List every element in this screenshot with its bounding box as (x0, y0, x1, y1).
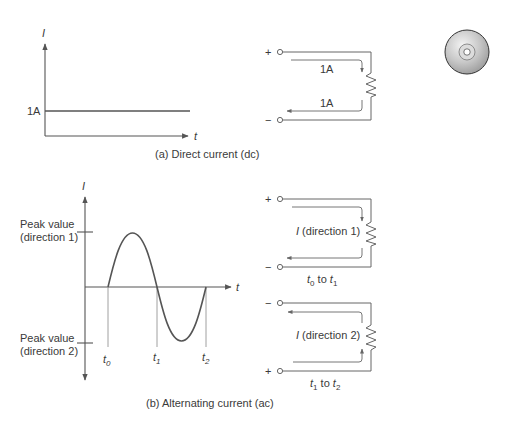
ac1-current-arrow-out (287, 248, 362, 258)
ac-graph: I t Peak value (direction 1) Peak value … (20, 180, 274, 409)
ac2-plus-sign: + (265, 365, 271, 377)
dc-bottom-current-label: 1A (320, 97, 334, 109)
dc-top-current-label: 1A (320, 63, 334, 75)
ac1-interval-label: t0 to t1 (307, 273, 338, 288)
dc-ac-diagram: I t 1A (a) Direct current (dc) + − 1A 1A… (0, 0, 515, 425)
ac1-minus-sign: − (265, 261, 271, 273)
ac2-current-arrow-out (288, 312, 362, 323)
dc-minus-terminal (277, 117, 282, 122)
peak1-label-line1: Peak value (20, 218, 74, 230)
ac2-current-label: I (direction 2) (296, 329, 360, 341)
ac-circuit-direction-2: − + I (direction 2) t1 to t2 (265, 297, 376, 392)
dc-graph: I t 1A (a) Direct current (dc) (27, 27, 260, 160)
ac1-plus-terminal (277, 196, 282, 201)
ac2-minus-sign: − (265, 297, 271, 309)
ac1-current-label: I (direction 1) (296, 225, 360, 237)
ac2-minus-terminal (277, 300, 282, 305)
dc-y-axis-label: I (42, 27, 45, 39)
ac1-top-wire (283, 199, 371, 222)
dc-x-axis-label: t (194, 130, 198, 142)
t0-label: t0 (103, 353, 111, 368)
dc-circuit: + − 1A 1A (265, 46, 376, 126)
cd-disc-icon (445, 30, 489, 74)
resistor-icon (366, 222, 376, 246)
ac2-plus-terminal (277, 368, 282, 373)
dc-plus-sign: + (265, 46, 271, 58)
dc-minus-sign: − (265, 114, 271, 126)
dc-level-label: 1A (27, 105, 41, 117)
ac1-plus-sign: + (265, 193, 271, 205)
t1-label: t1 (153, 351, 161, 366)
dc-plus-terminal (277, 49, 282, 54)
ac1-minus-terminal (277, 264, 282, 269)
ac2-top-wire (283, 303, 371, 325)
dc-caption: (a) Direct current (dc) (155, 148, 260, 160)
ac-y-axis-label: I (82, 180, 85, 192)
ac1-current-arrow-in (292, 207, 362, 221)
ac-circuit-direction-1: + − I (direction 1) t0 to t1 (265, 193, 376, 288)
ac1-bottom-wire (283, 246, 371, 267)
ac2-current-arrow-in (293, 349, 362, 362)
ac2-bottom-wire (283, 350, 371, 371)
resistor-icon (366, 325, 376, 350)
ac-x-axis-label: t (236, 281, 240, 293)
ac-caption: (b) Alternating current (ac) (146, 397, 274, 409)
ac2-interval-label: t1 to t2 (310, 377, 341, 392)
peak1-label-line2: (direction 1) (20, 231, 78, 243)
t2-label: t2 (202, 351, 210, 366)
peak2-label-line2: (direction 2) (20, 345, 78, 357)
resistor-icon (366, 73, 376, 97)
peak2-label-line1: Peak value (20, 332, 74, 344)
